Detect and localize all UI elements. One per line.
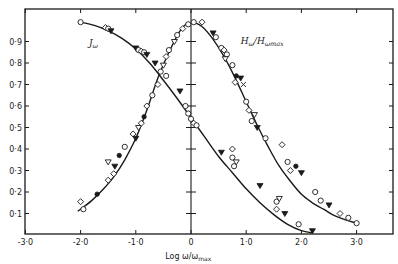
open-circle-marker: [186, 111, 191, 116]
data-point-marker: [230, 63, 235, 68]
x-tick-label: -3·0: [18, 238, 34, 247]
data-points: [78, 19, 360, 234]
filled-triangle-marker: [152, 61, 158, 66]
open-circle-marker: [231, 164, 236, 169]
y-tick-label: 0·7: [9, 81, 22, 90]
open-circle-marker: [224, 52, 229, 57]
open-circle-marker: [263, 136, 268, 141]
data-point-marker: [318, 198, 323, 203]
open-circle-marker: [81, 207, 86, 212]
y-tick-label: 0·9: [9, 38, 22, 47]
open-diamond-marker: [229, 146, 235, 152]
y-tick-label: 0·2: [9, 188, 22, 197]
data-point-marker: [326, 203, 332, 208]
tick-marks: 0·10·20·30·40·50·60·70·80·9-3·0-2·0-1·00…: [9, 9, 393, 247]
data-point-marker: [112, 164, 118, 169]
filled-triangle-marker: [218, 150, 224, 155]
subscript: max: [198, 255, 212, 262]
x-tick-label: 1·0: [240, 238, 253, 247]
data-point-marker: [230, 155, 235, 160]
data-point-marker: [133, 136, 139, 141]
open-circle-marker: [354, 221, 359, 226]
annotation-j-omega: Jω: [87, 38, 99, 50]
data-point-marker: [194, 123, 199, 128]
x-tick-label: -1·0: [128, 238, 144, 247]
data-point-marker: [111, 171, 117, 177]
open-diamond-marker: [279, 142, 285, 148]
data-point-marker: [257, 184, 263, 189]
data-point-marker: [78, 20, 83, 25]
open-circle-marker: [313, 189, 318, 194]
data-point-marker: [263, 136, 268, 141]
open-circle-marker: [186, 22, 191, 27]
open-diamond-marker: [274, 206, 280, 212]
data-point-marker: [183, 103, 188, 108]
subscript: ω: [92, 42, 98, 50]
y-tick-label: 0·1: [9, 210, 22, 219]
filled-triangle-marker: [298, 171, 304, 176]
data-point-marker: [177, 89, 183, 94]
annotation-h-ratio: Hω/Hωmax: [240, 36, 284, 48]
data-point-marker: [285, 159, 290, 164]
open-triangle-marker: [105, 160, 111, 165]
data-point-marker: [81, 207, 86, 212]
filled-triangle-marker: [133, 136, 139, 141]
open-circle-marker: [150, 93, 155, 98]
data-point-marker: [249, 118, 254, 123]
chart-figure: 0·10·20·30·40·50·60·70·80·9-3·0-2·0-1·00…: [0, 0, 398, 264]
data-point-marker: [175, 32, 180, 37]
y-tick-label: 0·4: [9, 145, 22, 154]
data-point-marker: [186, 111, 191, 116]
open-circle-marker: [158, 69, 163, 74]
data-point-marker: [164, 73, 169, 78]
open-diamond-marker: [111, 171, 117, 177]
open-triangle-marker: [160, 63, 166, 68]
data-point-marker: [105, 160, 111, 165]
data-point-marker: [241, 82, 246, 87]
open-diamond-marker: [337, 211, 343, 217]
data-point-marker: [224, 52, 229, 57]
open-circle-marker: [249, 118, 254, 123]
filled-circle-marker: [294, 164, 298, 168]
x-axis-label: Log ω/ωmax: [165, 252, 211, 262]
data-point-marker: [231, 164, 236, 169]
open-circle-marker: [213, 35, 218, 40]
data-point-marker: [287, 168, 293, 174]
open-circle-marker: [166, 48, 171, 53]
data-point-marker: [158, 69, 163, 74]
x-axis-title: Log ω/ωmax: [165, 252, 211, 262]
data-point-marker: [346, 215, 351, 220]
filled-circle-marker: [117, 153, 121, 157]
fit-curve-2: [194, 22, 357, 223]
data-point-marker: [222, 57, 228, 62]
open-circle-marker: [244, 99, 249, 104]
open-circle-marker: [285, 159, 290, 164]
data-point-marker: [213, 35, 218, 40]
data-point-marker: [150, 93, 155, 98]
data-point-marker: [117, 153, 121, 157]
slash: /H: [253, 36, 265, 46]
open-circle-marker: [230, 155, 235, 160]
data-point-marker: [296, 222, 301, 227]
data-point-marker: [160, 63, 166, 68]
open-triangle-marker: [222, 57, 228, 62]
open-circle-marker: [122, 144, 127, 149]
data-point-marker: [313, 189, 318, 194]
y-tick-label: 0·5: [9, 124, 22, 133]
data-point-marker: [152, 61, 158, 66]
open-circle-marker: [183, 103, 188, 108]
open-diamond-marker: [287, 168, 293, 174]
data-point-marker: [238, 76, 244, 81]
open-circle-marker: [175, 32, 180, 37]
filled-triangle-marker: [238, 76, 244, 81]
data-point-marker: [191, 20, 196, 25]
data-point-marker: [122, 144, 127, 149]
data-point-marker: [282, 212, 288, 217]
x-tick-label: 0: [188, 238, 193, 247]
data-point-marker: [186, 22, 191, 27]
x-tick-label: 2·0: [295, 238, 308, 247]
data-point-marker: [78, 199, 84, 205]
open-circle-marker: [78, 20, 83, 25]
filled-triangle-marker: [326, 203, 332, 208]
open-circle-marker: [346, 215, 351, 220]
